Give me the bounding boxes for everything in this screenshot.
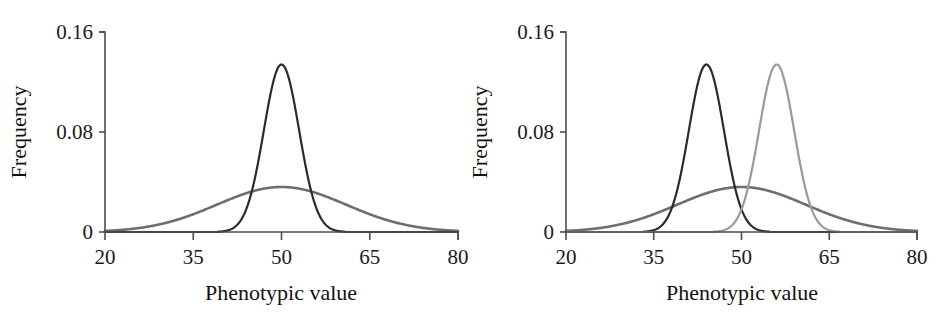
axes-left [99, 32, 458, 240]
x-tick-label: 35 [183, 245, 204, 269]
x-tick-label: 35 [643, 245, 664, 269]
x-axis-title-right: Phenotypic value [666, 280, 818, 305]
figure-container: 00.080.162035506580 Phenotypic value Fre… [0, 0, 943, 323]
y-axis-title-left: Frequency [6, 86, 31, 179]
y-tick-label: 0.08 [517, 120, 554, 144]
curves-left [105, 65, 458, 233]
axis-lines [566, 32, 917, 232]
x-tick-label: 80 [907, 245, 928, 269]
x-tick-label: 50 [271, 245, 292, 269]
axis-lines [105, 32, 458, 232]
x-tick-label: 80 [448, 245, 469, 269]
plot-left: 00.080.162035506580 Phenotypic value Fre… [0, 0, 471, 323]
curves-right [566, 65, 917, 233]
plot-right: 00.080.162035506580 Phenotypic value Fre… [471, 0, 943, 323]
y-tick-label: 0.08 [56, 120, 93, 144]
chart-panel-left: 00.080.162035506580 Phenotypic value Fre… [0, 0, 471, 323]
x-tick-label: 65 [359, 245, 380, 269]
x-axis-title-left: Phenotypic value [205, 280, 357, 305]
y-tick-label: 0 [544, 220, 555, 244]
chart-panel-right: 00.080.162035506580 Phenotypic value Fre… [471, 0, 943, 323]
y-tick-label: 0.16 [56, 20, 93, 44]
curve-narrow-distribution [105, 65, 458, 233]
x-tick-label: 20 [556, 245, 577, 269]
curve-narrow-distribution-high [566, 65, 917, 233]
x-tick-label: 65 [819, 245, 840, 269]
curve-broad-distribution [105, 187, 458, 231]
axes-right [560, 32, 917, 240]
x-tick-label: 20 [95, 245, 116, 269]
y-tick-label: 0.16 [517, 20, 554, 44]
y-axis-title-right: Frequency [471, 86, 492, 179]
x-tick-label: 50 [731, 245, 752, 269]
y-tick-label: 0 [83, 220, 94, 244]
